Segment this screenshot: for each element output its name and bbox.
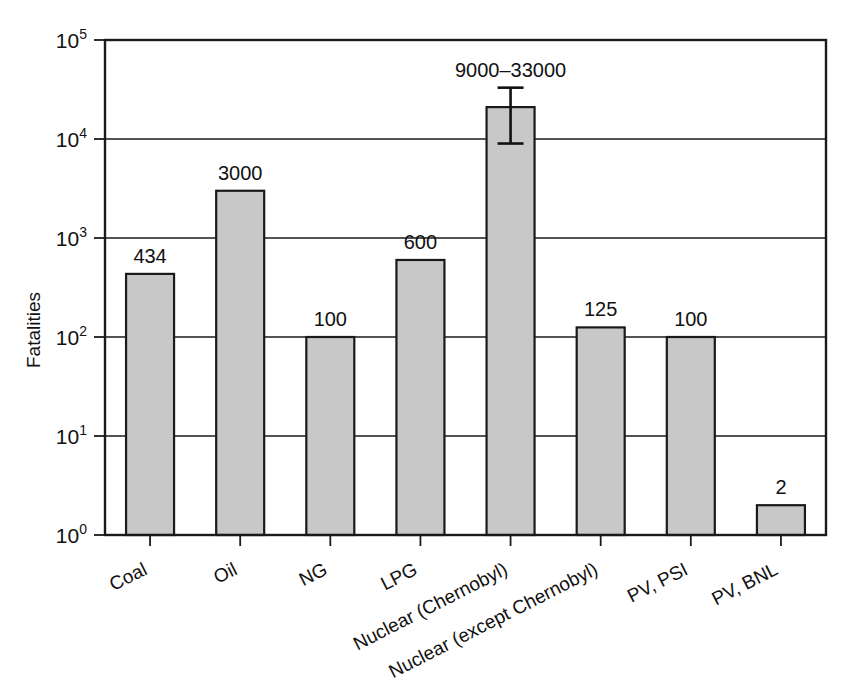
y-axis-title: Fatalities <box>23 292 44 368</box>
y-tick-label: 105 <box>56 26 87 52</box>
plot-background <box>105 40 826 535</box>
y-tick-label: 101 <box>56 422 87 448</box>
category-label-lpg: LPG <box>377 558 420 594</box>
y-tick-label: 103 <box>56 224 87 250</box>
bar-value-label: 9000–33000 <box>455 59 566 81</box>
y-tick-label: 104 <box>56 125 87 151</box>
category-label-pv-bnl: PV, BNL <box>708 558 781 609</box>
bar-pv-bnl <box>757 505 805 535</box>
category-label-oil: Oil <box>210 558 240 587</box>
bar-value-label: 100 <box>674 308 707 330</box>
x-axis-category-labels: CoalOilNGLPGNuclear (Chernobyl)Nuclear (… <box>106 558 781 682</box>
bar-value-label: 100 <box>314 308 347 330</box>
y-tick-label: 102 <box>56 323 87 349</box>
category-label-pv-psi: PV, PSI <box>624 558 691 606</box>
y-axis-ticks <box>94 40 105 535</box>
bar-value-label: 600 <box>404 231 437 253</box>
bar-coal <box>126 274 174 535</box>
bar-nuclear-except-chernobyl <box>577 327 625 535</box>
fatalities-bar-chart: 100101102103104105 43430001006009000–330… <box>0 0 855 693</box>
y-tick-label: 100 <box>56 521 87 547</box>
bar-value-label: 434 <box>133 245 166 267</box>
bar-value-label: 2 <box>775 476 786 498</box>
figure-root: 100101102103104105 43430001006009000–330… <box>0 0 855 693</box>
bar-oil <box>216 191 264 535</box>
x-axis-ticks <box>150 535 781 546</box>
bar-nuclear-chernobyl <box>487 107 535 535</box>
bar-value-label: 3000 <box>218 162 263 184</box>
bar-ng <box>306 337 354 535</box>
bar-value-label: 125 <box>584 298 617 320</box>
category-label-ng: NG <box>296 558 331 590</box>
y-axis-tick-labels: 100101102103104105 <box>56 26 87 547</box>
bar-lpg <box>396 260 444 535</box>
bar-pv-psi <box>667 337 715 535</box>
category-label-coal: Coal <box>106 558 150 594</box>
